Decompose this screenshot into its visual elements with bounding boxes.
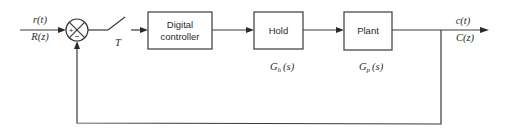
input-signal: r(t) R(z) <box>20 14 66 43</box>
plant-transfer-function-label: Gp(s) <box>359 61 384 74</box>
summing-junction: + − <box>66 19 88 41</box>
output-arrow-icon <box>480 27 489 33</box>
digital-controller-label-line1: Digital <box>167 19 193 30</box>
sampler-arrow-icon <box>140 27 148 33</box>
controller-to-hold-arrow-icon <box>246 27 254 33</box>
minus-sign: − <box>75 32 80 41</box>
block-diagram: r(t) R(z) + − T Digital controller Hold … <box>0 0 505 131</box>
hold-transfer-function-label: Gh(s) <box>270 61 295 74</box>
plant-tf-arg: (s) <box>372 61 384 73</box>
digital-controller-label-line2: controller <box>160 31 199 42</box>
block-plant: Plant Gp(s) <box>344 12 392 74</box>
output-z-label: C(z) <box>456 32 475 44</box>
hold-to-plant-arrow-icon <box>336 27 344 33</box>
input-time-label: r(t) <box>33 14 48 26</box>
input-z-label: R(z) <box>30 31 49 43</box>
sampling-period-label: T <box>115 37 122 48</box>
feedback-arrow-icon <box>74 41 80 49</box>
block-hold: Hold Gh(s) <box>254 12 303 74</box>
plant-tf-sub: p <box>366 66 371 74</box>
hold-label: Hold <box>269 25 289 36</box>
plant-label: Plant <box>357 25 379 36</box>
block-digital-controller: Digital controller <box>148 12 212 49</box>
hold-tf-arg: (s) <box>283 61 295 73</box>
input-arrow-icon <box>58 27 66 33</box>
plus-sign: + <box>69 26 74 35</box>
hold-tf-sub: h <box>278 66 282 74</box>
sampler-switch: T <box>88 17 148 48</box>
output-time-label: c(t) <box>456 15 471 27</box>
switch-blade-icon <box>108 17 125 30</box>
